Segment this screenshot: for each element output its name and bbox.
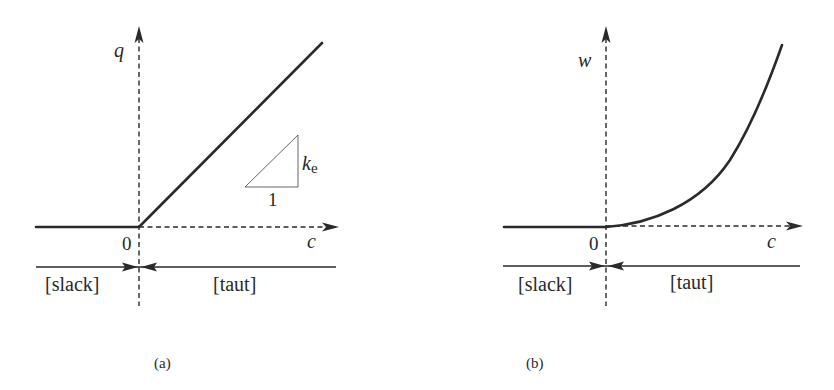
panel-b-y-axis-label: w [578,49,592,71]
panel-a-caption: (a) [154,355,171,372]
panel-b-origin-label: 0 [589,233,599,254]
panel-a-x-axis-label: c [307,230,316,252]
panel-a-y-axis-label: q [114,39,124,62]
panel-a-response-curve [36,43,322,227]
panel-b-response-curve [504,45,782,227]
panel-b-slack-label: [slack] [518,273,572,295]
panel-b: w c 0 [slack] [taut] (b) [503,26,803,372]
panel-a-slope-rise-label: ke [302,152,318,176]
panel-b-x-axis-label: c [767,230,776,252]
panel-b-taut-label: [taut] [670,271,713,293]
panel-b-caption: (b) [526,355,544,372]
figure: ke 1 q c 0 [slack] [taut] (a) w c 0 [sl [0,0,834,390]
panel-a-taut-label: [taut] [213,273,256,295]
panel-a-origin-label: 0 [122,233,132,254]
panel-a-slope-triangle [245,135,298,187]
panel-a-slope-run-label: 1 [268,189,278,210]
panel-a: ke 1 q c 0 [slack] [taut] (a) [36,26,339,372]
panel-a-slack-label: [slack] [45,273,99,295]
panel-a-x-axis-arrow-icon [322,223,339,232]
